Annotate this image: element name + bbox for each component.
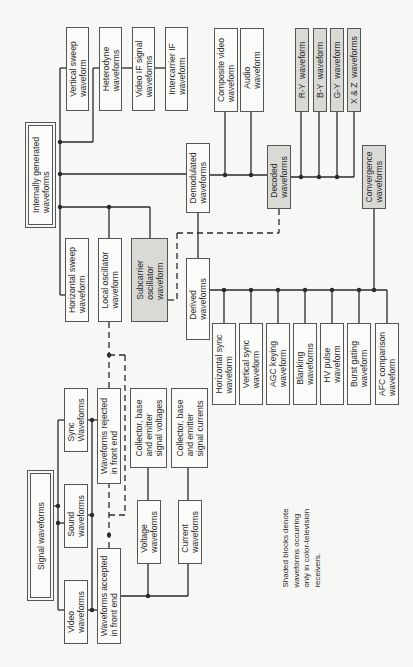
box-label: R-Y waveform <box>297 42 307 99</box>
blanking-box: Blanking waveforms <box>293 323 317 405</box>
sound-waveforms-box: Sound waveforms <box>64 484 88 548</box>
box-label: G-Y waveform <box>332 41 342 98</box>
box-label: Intercarrier IF waveform <box>167 43 187 95</box>
internally-generated-waveforms-box: Internally generated waveforms <box>28 125 53 225</box>
legend-note-text: Shaded blocks denote waveforms occurring… <box>281 508 323 587</box>
box-label: Waveforms accepted in front end <box>99 556 119 636</box>
demodulated-box: Demodulated waveforms <box>186 143 210 213</box>
intercarrier-if-box: Intercarrier IF waveform <box>165 27 188 111</box>
g-y-box: G-Y waveform <box>330 28 344 112</box>
box-label: Vertical sweep waveform <box>68 41 88 96</box>
box-label: Composite video waveform <box>216 38 236 102</box>
x-z-box: X & Z waveforms <box>347 28 361 112</box>
audio-box: Audio waveform <box>240 28 264 112</box>
box-label: Heterodyne waveforms <box>101 47 121 91</box>
box-label: Horizontal sweep waveform <box>67 247 87 313</box>
convergence-box: Convergence waveforms <box>362 145 386 209</box>
waveform-classification-diagram: Internally generated waveforms Vertical … <box>0 0 413 667</box>
box-label: Voltage waveforms <box>139 511 159 553</box>
box-label: Derived waveforms <box>188 278 208 320</box>
box-label: Video waveforms <box>66 591 86 633</box>
collector-voltages-box: Collector, base and emitter signal volta… <box>130 388 167 468</box>
box-label: Audio waveform <box>242 51 262 88</box>
vertical-sync-box: Vertical sync waveform <box>239 323 263 405</box>
box-label: B-Y waveform <box>315 42 325 98</box>
box-label: Current waveforms <box>180 511 200 553</box>
box-label: Signal waveforms <box>36 502 46 570</box>
legend-note: Shaded blocks denote waveforms occurring… <box>280 488 324 608</box>
box-label: Subcarrier oscillator waveform <box>135 260 165 300</box>
horizontal-sweep-box: Horizontal sweep waveform <box>65 238 89 322</box>
waveforms-accepted-box: Waveforms accepted in front end <box>97 548 121 644</box>
derived-box: Derived waveforms <box>186 258 210 340</box>
box-label: Vertical sync waveform <box>241 340 261 388</box>
composite-video-box: Composite video waveform <box>214 28 238 112</box>
box-label: Demodulated waveforms <box>188 152 208 203</box>
box-label: X & Z waveforms <box>349 36 359 104</box>
horizontal-sync-box: Horizontal sync waveform <box>212 323 236 405</box>
box-label: Collector, base and emitter signal volta… <box>134 400 164 457</box>
video-waveforms-box: Video waveforms <box>64 580 88 644</box>
box-label: Blanking waveforms <box>295 343 315 385</box>
video-if-box: Video IF signal waveforms <box>132 27 155 111</box>
box-label: Convergence waveforms <box>364 151 384 202</box>
hv-pulse-box: HV pulse waveform <box>320 323 344 405</box>
decoded-box: Decoded waveforms <box>267 145 291 209</box>
collector-currents-box: Collector, base and emitter signal curre… <box>171 388 208 468</box>
box-label: Burst gating waveform <box>349 341 369 387</box>
box-label: Sync Waveforms <box>66 398 86 441</box>
box-label: Local oscillator waveform <box>100 252 120 309</box>
box-label: Waveforms rejected in front end <box>99 398 119 474</box>
box-label: Decoded waveforms <box>269 156 289 198</box>
heterodyne-box: Heterodyne waveforms <box>99 27 122 111</box>
box-label: HV pulse waveform <box>322 345 342 382</box>
signal-waveforms-box: Signal waveforms <box>30 473 51 598</box>
vertical-sweep-box: Vertical sweep waveform <box>66 27 89 111</box>
burst-gating-box: Burst gating waveform <box>347 323 371 405</box>
waveforms-rejected-box: Waveforms rejected in front end <box>97 388 121 484</box>
subcarrier-oscillator-box: Subcarrier oscillator waveform <box>131 238 168 322</box>
box-label: Sound waveforms <box>66 495 86 537</box>
sync-waveforms-box: Sync Waveforms <box>64 388 88 452</box>
b-y-box: B-Y waveform <box>313 28 327 112</box>
box-label: AGC keying waveform <box>268 341 288 387</box>
afc-comparison-box: AFC comparison waveform <box>375 323 399 405</box>
box-label: Video IF signal waveforms <box>134 41 154 98</box>
agc-keying-box: AGC keying waveform <box>266 323 290 405</box>
box-label: AFC comparison waveform <box>377 332 397 396</box>
current-waveforms-box: Current waveforms <box>178 500 202 564</box>
r-y-box: R-Y waveform <box>295 28 309 112</box>
box-label: Internally generated waveforms <box>31 137 51 213</box>
box-label: Collector, base and emitter signal curre… <box>175 400 205 457</box>
local-oscillator-box: Local oscillator waveform <box>98 238 122 322</box>
box-label: Horizontal sync waveform <box>214 335 234 394</box>
voltage-waveforms-box: Voltage waveforms <box>137 500 161 564</box>
